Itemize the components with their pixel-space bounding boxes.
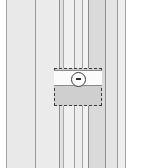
circular-fixture-marker[interactable] [71, 72, 86, 87]
right-margin-band [126, 0, 151, 168]
board-1 [6, 0, 36, 168]
joint-line-1 [6, 0, 7, 168]
elevation-drawing-canvas [0, 0, 151, 168]
horizontal-dash-icon [76, 78, 81, 80]
joint-line-8 [105, 0, 106, 168]
joint-line-2 [35, 0, 36, 168]
joint-line-9 [117, 0, 118, 168]
